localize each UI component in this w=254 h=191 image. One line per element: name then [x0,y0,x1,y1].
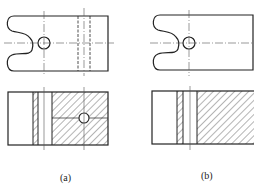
panel-a-outline [7,16,108,71]
panel-a-centerlines [4,8,114,76]
panel-a-top-view [4,8,114,76]
panel-b-section-view [152,86,254,150]
panel-b-centerlines [150,10,254,76]
panel-a-label: (a) [60,172,71,183]
panel-b-outline [153,15,253,70]
panel-b-label: (b) [201,170,213,181]
panel-b-top-view [150,10,254,76]
technical-drawing [0,0,254,191]
panel-a-section-view [8,87,108,150]
